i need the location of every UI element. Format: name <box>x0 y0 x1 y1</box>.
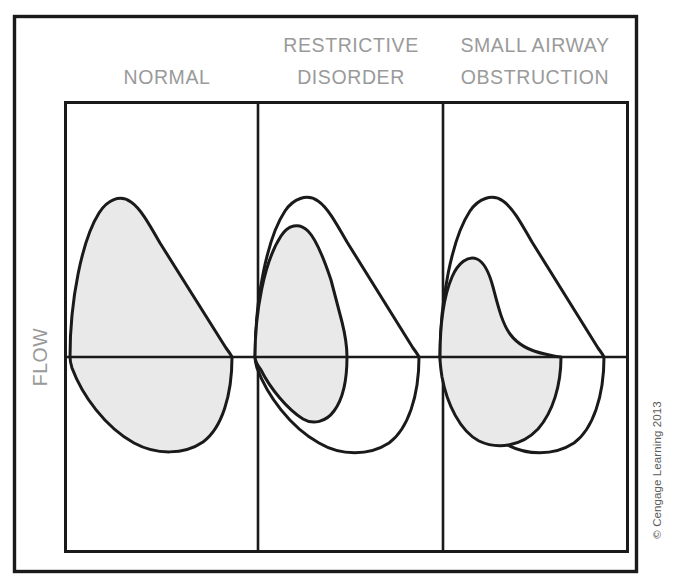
flow-volume-loop-figure: NORMAL RESTRICTIVE DISORDER SMALL AIRWAY… <box>0 0 681 587</box>
figure-root: NORMAL RESTRICTIVE DISORDER SMALL AIRWAY… <box>0 0 681 587</box>
panel-title-obstruction-line2: OBSTRUCTION <box>461 66 610 88</box>
panel-title-restrictive-line1: RESTRICTIVE <box>283 34 419 56</box>
copyright-credit: © Cengage Learning 2013 <box>651 401 663 538</box>
panel-title-obstruction-line1: SMALL AIRWAY <box>460 34 609 56</box>
panel-title-normal: NORMAL <box>123 66 210 88</box>
axis-label-flow: FLOW <box>29 328 51 387</box>
panel-title-restrictive-line2: DISORDER <box>297 66 405 88</box>
